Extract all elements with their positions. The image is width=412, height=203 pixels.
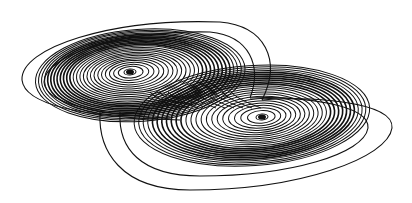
scroll-center <box>126 70 134 75</box>
spiral-scrolls <box>32 22 373 174</box>
scroll-center <box>258 115 266 120</box>
attractor-figure <box>0 0 412 203</box>
attractor-plot <box>0 0 412 203</box>
left-scroll <box>32 22 248 128</box>
